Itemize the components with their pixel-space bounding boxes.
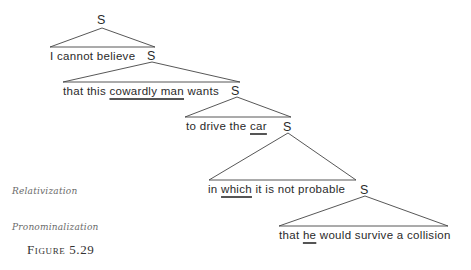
figure-caption: Figure 5.29 [27, 242, 94, 258]
clause-text: would survive a collision [316, 229, 450, 241]
triangle-s4 [209, 133, 356, 180]
node-s1: S [97, 14, 105, 26]
underlined-phrase: which [221, 183, 252, 195]
node-s5: S [360, 184, 368, 196]
clause-1: I cannot believe [50, 50, 135, 62]
clause-3: to drive the car [186, 120, 267, 132]
clause-text: I cannot believe [50, 50, 135, 62]
triangle-s2 [63, 62, 240, 82]
underlined-phrase: car [250, 120, 267, 132]
node-s3: S [231, 85, 239, 97]
triangle-s1 [50, 28, 155, 47]
clause-text: in [208, 183, 221, 195]
underlined-phrase: cowardly man [109, 85, 184, 97]
clause-text: wants [184, 85, 219, 97]
annotation-relativization: Relativization [12, 186, 77, 196]
clause-text: that this [63, 85, 109, 97]
clause-text: to drive the [186, 120, 250, 132]
clause-5: that he would survive a collision [279, 229, 451, 241]
triangle-s3 [185, 97, 291, 117]
clause-2: that this cowardly man wants [63, 85, 219, 97]
node-s2: S [147, 50, 155, 62]
triangle-s5 [279, 196, 448, 226]
clause-4: in which it is not probable [208, 183, 345, 195]
annotation-pronominalization: Pronominalization [12, 222, 99, 232]
clause-text: it is not probable [252, 183, 345, 195]
clause-text: that [279, 229, 303, 241]
underlined-phrase: he [303, 229, 316, 241]
node-s4: S [283, 121, 291, 133]
